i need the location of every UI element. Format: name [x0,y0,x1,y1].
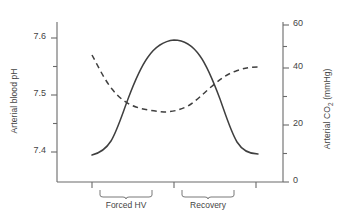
left-major-ticks [51,38,57,152]
left-tick-label-7-6: 7.6 [16,31,46,41]
series-arterial-co2 [92,55,258,112]
series-arterial-blood-ph [92,40,258,155]
right-minor-ticks [283,47,287,154]
y-axis-right-title: Arterial CO2 (mmHg) [322,49,334,169]
y-axis-left-title: Arterial blood pH [9,46,19,156]
chart-figure: Arterial blood pH Arterial CO2 (mmHg) 7.… [0,0,345,220]
right-major-ticks [283,25,289,182]
right-tick-label-0: 0 [293,175,323,185]
bracket-forced-hv [100,190,152,199]
x-axis-ticks [92,182,256,188]
annotation-label-recovery: Recovery [168,200,248,210]
annotation-label-forced-hv: Forced HV [86,200,166,210]
y-axis-right-title-subscript: 2 [327,102,334,106]
right-tick-label-20: 20 [293,118,323,128]
y-axis-right-title-tail: (mmHg) [322,69,332,103]
right-tick-label-60: 60 [293,18,323,28]
right-tick-label-40: 40 [293,61,323,71]
left-tick-label-7-5: 7.5 [16,88,46,98]
y-axis-right-title-main: Arterial CO [322,106,332,149]
chart-canvas [0,0,345,220]
bracket-recovery [182,190,234,199]
left-tick-label-7-4: 7.4 [16,145,46,155]
